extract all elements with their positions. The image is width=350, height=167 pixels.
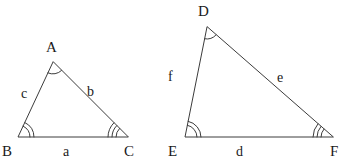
geometry-figure: A B C a b c D E F d e f	[0, 0, 350, 167]
triangle-def-shape	[185, 27, 333, 137]
angle-arc-f-2	[317, 126, 321, 137]
vertex-label-a: A	[46, 40, 57, 55]
angle-arc-c-1	[116, 129, 120, 137]
side-label-e: e	[277, 71, 283, 85]
vertex-label-b: B	[2, 144, 12, 159]
side-label-f: f	[168, 70, 173, 84]
side-label-a: a	[63, 145, 69, 159]
angle-arc-d-1	[205, 35, 216, 39]
side-label-d: d	[236, 145, 243, 159]
side-label-b: b	[87, 85, 94, 99]
angle-arc-c-3	[108, 123, 114, 137]
vertex-label-f: F	[330, 144, 338, 159]
angle-mark-d	[205, 35, 216, 39]
vertex-label-e: E	[168, 144, 177, 159]
angle-arc-e-1	[187, 125, 197, 137]
angle-mark-c	[108, 123, 120, 137]
angle-mark-a	[48, 70, 62, 74]
triangle-abc-shape	[18, 62, 128, 137]
angle-mark-e	[187, 121, 201, 137]
angle-arc-f-1	[321, 129, 324, 137]
geometry-canvas	[0, 0, 350, 167]
side-label-c: c	[21, 87, 27, 101]
triangle-def-outline	[185, 27, 333, 137]
vertex-label-d: D	[198, 4, 209, 19]
vertex-label-c: C	[124, 144, 134, 159]
angle-mark-b	[23, 123, 34, 138]
angle-mark-f	[313, 124, 324, 137]
angle-arc-b-1	[23, 126, 30, 137]
angle-arc-a-1	[48, 70, 62, 74]
